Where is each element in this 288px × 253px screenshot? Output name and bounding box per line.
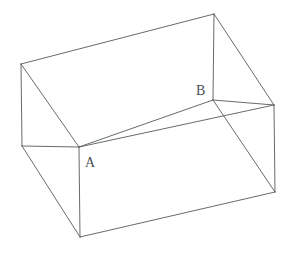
edge-left-rim	[21, 64, 22, 146]
edge-right-inner-wall	[213, 14, 214, 100]
edge-inner-floor-front	[79, 100, 213, 147]
edge-left-inner-wall	[21, 64, 79, 147]
edge-inner-front-right-to-rim	[213, 100, 274, 105]
edge-top-back	[21, 14, 214, 64]
edge-right-vertical	[274, 105, 275, 192]
box-line-drawing	[0, 0, 288, 253]
vertex-label-b: B	[196, 84, 205, 98]
edge-right-rim	[214, 14, 274, 105]
edge-bottom-front	[80, 192, 275, 237]
edge-front-corner-vertical	[79, 147, 80, 237]
edge-right-face-diagonal	[213, 100, 275, 192]
edge-front-left-vertical	[22, 146, 80, 237]
vertex-label-a: A	[85, 156, 95, 170]
edge-front-rim-long	[79, 105, 274, 147]
edge-front-rim-left	[22, 146, 79, 147]
figure-canvas: A B	[0, 0, 288, 253]
